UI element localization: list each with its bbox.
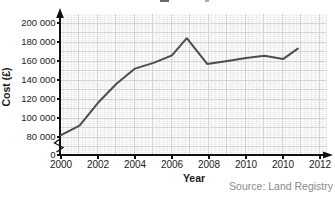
source-credit: Source: Land Registry [229, 180, 333, 192]
x-tick-label: 2012 [309, 159, 332, 170]
y-tick-label: 140 000 [21, 74, 55, 85]
x-tick-label: 2010 [272, 159, 295, 170]
y-tick-label: 80 000 [26, 131, 55, 142]
y-tick-label: 180 000 [21, 36, 55, 47]
x-tick-label: 2010 [235, 159, 258, 170]
chart-area: 20002002200420062008201020102012200 0001… [0, 0, 335, 197]
y-tick-label: 100 000 [21, 112, 55, 123]
y-tick-label: 200 000 [21, 17, 55, 28]
x-tick-label: 2006 [161, 159, 184, 170]
y-tick-label: 0 [50, 149, 55, 160]
y-axis-title: Cost (£) [0, 47, 12, 127]
y-tick-label: 120 000 [21, 93, 55, 104]
x-tick-label: 2000 [50, 159, 73, 170]
x-tick-label: 2002 [87, 159, 110, 170]
x-axis-arrow-icon [323, 151, 333, 158]
y-axis-arrow-icon [56, 8, 64, 18]
x-axis-title: Year [172, 172, 216, 184]
x-tick-label: 2004 [124, 159, 147, 170]
line-chart: 20002002200420062008201020102012200 0001… [0, 0, 335, 197]
x-tick-label: 2008 [198, 159, 221, 170]
y-tick-label: 160 000 [21, 55, 55, 66]
